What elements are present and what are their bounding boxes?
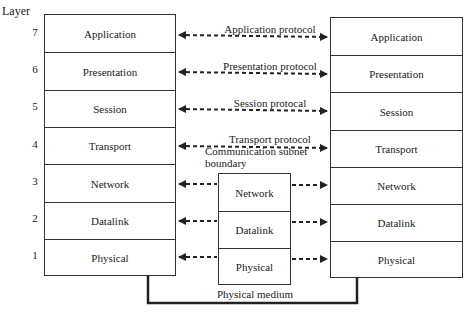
session-protocol-arrow [179,109,327,111]
physical-medium-wire [148,275,357,303]
connections-overlay [0,0,469,313]
application-protocol-arrow [179,35,327,37]
transport-protocol-arrow [179,146,327,148]
presentation-protocol-arrow [179,72,327,74]
